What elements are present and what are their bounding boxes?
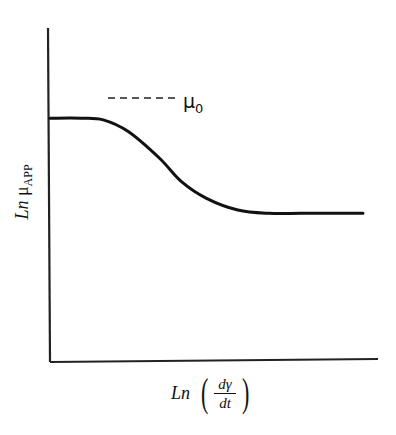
x-label-denominator: dt — [219, 394, 231, 412]
open-paren: ( — [201, 373, 208, 413]
y-axis — [48, 28, 50, 362]
x-axis-label: Ln ( dγ dt ) — [171, 373, 255, 413]
mu0-annotation: μ0 — [183, 90, 203, 116]
y-label-subscript: APP — [21, 164, 35, 186]
mu0-subscript: 0 — [195, 101, 203, 116]
y-axis-label: Ln μAPP — [12, 164, 36, 219]
x-label-prefix: Ln — [171, 383, 190, 404]
mu0-symbol: μ — [183, 90, 195, 112]
y-label-prefix: Ln — [12, 201, 32, 220]
close-paren: ) — [242, 373, 249, 413]
chart-area — [0, 0, 396, 435]
x-label-numerator: dγ — [214, 375, 235, 394]
viscosity-curve — [50, 118, 363, 214]
y-label-symbol: μ — [12, 186, 32, 196]
x-axis — [50, 359, 378, 362]
x-label-fraction: dγ dt — [214, 375, 235, 412]
